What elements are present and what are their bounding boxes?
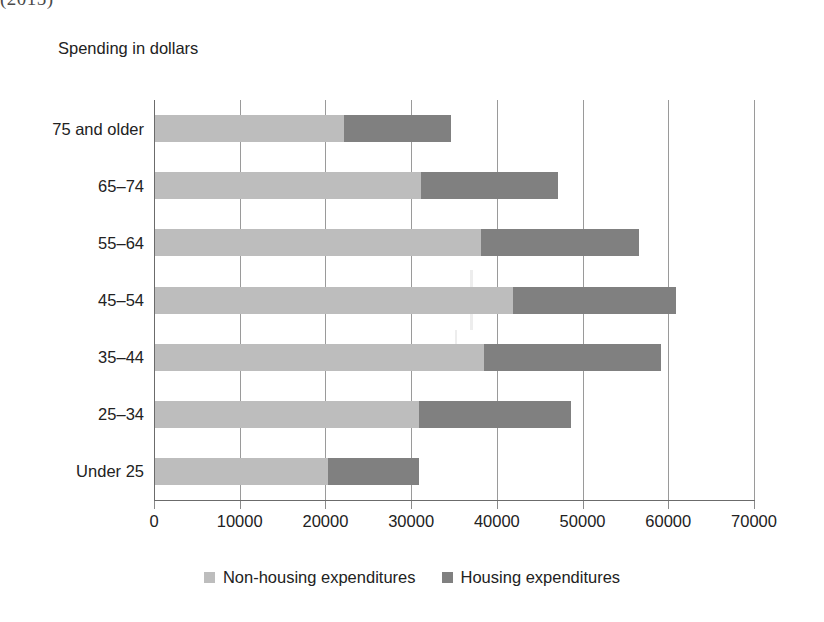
bar-segment[interactable] bbox=[155, 458, 328, 485]
x-axis-tick-label: 50000 bbox=[560, 512, 606, 531]
legend-label: Non-housing expenditures bbox=[223, 568, 416, 587]
category-label: 45–54 bbox=[98, 291, 144, 310]
x-axis-tick bbox=[583, 501, 584, 509]
x-axis-tick-label: 30000 bbox=[388, 512, 434, 531]
x-axis-tick-label: 60000 bbox=[645, 512, 691, 531]
bar-row[interactable] bbox=[155, 115, 754, 142]
bar-segment[interactable] bbox=[513, 287, 676, 314]
gridline bbox=[754, 100, 755, 500]
x-axis-tick bbox=[240, 501, 241, 509]
bar-segment[interactable] bbox=[155, 287, 513, 314]
stacked-bar-chart: Spending in dollars 75 and older65–7455–… bbox=[0, 0, 824, 622]
square-swatch-icon bbox=[204, 572, 215, 583]
x-axis-tick-label: 0 bbox=[149, 512, 158, 531]
x-axis-tick-label: 70000 bbox=[731, 512, 777, 531]
bar-segment[interactable] bbox=[155, 115, 344, 142]
bar-segment[interactable] bbox=[344, 115, 451, 142]
category-label: 25–34 bbox=[98, 405, 144, 424]
category-label: Under 25 bbox=[76, 462, 144, 481]
category-label: 65–74 bbox=[98, 176, 144, 195]
bar-segment[interactable] bbox=[155, 229, 481, 256]
plot-area bbox=[154, 100, 754, 500]
x-axis-tick bbox=[411, 501, 412, 509]
bar-segment[interactable] bbox=[328, 458, 419, 485]
bar-segment[interactable] bbox=[421, 172, 558, 199]
x-axis-tick-label: 10000 bbox=[217, 512, 263, 531]
square-swatch-icon bbox=[442, 572, 453, 583]
bar-segment[interactable] bbox=[419, 401, 571, 428]
x-axis-tick bbox=[325, 501, 326, 509]
bar-row[interactable] bbox=[155, 287, 754, 314]
chart-legend: Non-housing expendituresHousing expendit… bbox=[0, 568, 824, 587]
legend-item[interactable]: Housing expenditures bbox=[442, 568, 621, 587]
bar-row[interactable] bbox=[155, 172, 754, 199]
bar-row[interactable] bbox=[155, 229, 754, 256]
bar-row[interactable] bbox=[155, 401, 754, 428]
bar-row[interactable] bbox=[155, 344, 754, 371]
bar-segment[interactable] bbox=[155, 344, 484, 371]
x-axis-tick bbox=[754, 501, 755, 509]
bar-segment[interactable] bbox=[155, 172, 421, 199]
x-axis-tick-label: 20000 bbox=[302, 512, 348, 531]
category-label-column: 75 and older65–7455–6445–5435–4425–34Und… bbox=[0, 0, 144, 622]
x-axis-tick bbox=[497, 501, 498, 509]
x-axis-tick bbox=[154, 501, 155, 509]
legend-item[interactable]: Non-housing expenditures bbox=[204, 568, 416, 587]
x-axis-line bbox=[154, 500, 755, 501]
bar-row[interactable] bbox=[155, 458, 754, 485]
legend-label: Housing expenditures bbox=[461, 568, 621, 587]
category-label: 55–64 bbox=[98, 233, 144, 252]
x-axis-tick bbox=[668, 501, 669, 509]
bar-segment[interactable] bbox=[155, 401, 419, 428]
x-axis-tick-label: 40000 bbox=[474, 512, 520, 531]
bar-segment[interactable] bbox=[484, 344, 661, 371]
category-label: 35–44 bbox=[98, 348, 144, 367]
bar-segment[interactable] bbox=[481, 229, 640, 256]
category-label: 75 and older bbox=[52, 119, 144, 138]
